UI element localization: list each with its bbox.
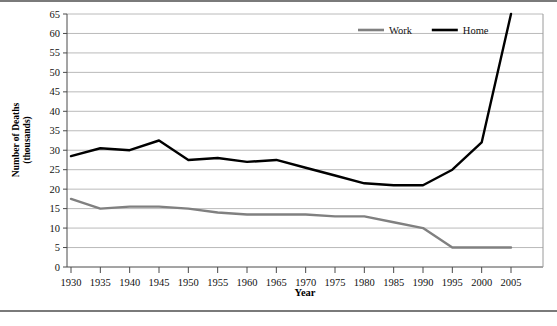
legend-label-work: Work (389, 25, 413, 36)
x-tick-label: 2005 (501, 277, 522, 288)
y-tick-labels-group: 05101520253035404550556065 (50, 9, 61, 273)
x-tick-marks-group (71, 267, 511, 273)
x-tick-label: 1930 (61, 277, 82, 288)
y-tick-label: 45 (50, 86, 61, 97)
x-tick-labels-group: 1930193519401945195019551960196519701975… (61, 277, 522, 288)
y-tick-marks-group (63, 14, 67, 267)
bottom-divider-rule (0, 310, 557, 312)
y-tick-label: 20 (50, 184, 61, 195)
x-tick-label: 2000 (471, 277, 492, 288)
plot-area-wrapper: 05101520253035404550556065 1930193519401… (0, 0, 557, 310)
y-axis-title: Number of Deaths (thousands) (11, 103, 33, 178)
y-tick-label: 5 (55, 242, 60, 253)
line-chart-svg: 05101520253035404550556065 1930193519401… (0, 0, 557, 310)
y-tick-label: 0 (55, 262, 60, 273)
y-axis-title-line2: (thousands) (22, 116, 33, 164)
x-tick-label: 1975 (325, 277, 346, 288)
x-tick-label: 1955 (207, 277, 228, 288)
y-tick-label: 30 (50, 145, 61, 156)
x-tick-label: 1960 (237, 277, 258, 288)
x-tick-label: 1950 (178, 277, 199, 288)
series-line-work (71, 199, 511, 248)
x-tick-label: 1985 (383, 277, 404, 288)
y-tick-label: 40 (50, 106, 61, 117)
chart-legend: WorkHome (358, 25, 489, 36)
y-tick-label: 65 (50, 9, 61, 20)
x-axis-title: Year (295, 287, 316, 298)
x-tick-label: 1945 (149, 277, 170, 288)
x-tick-label: 1965 (266, 277, 287, 288)
x-tick-label: 1980 (354, 277, 375, 288)
x-tick-label: 1990 (413, 277, 434, 288)
y-tick-label: 25 (50, 164, 61, 175)
y-tick-label: 35 (50, 125, 61, 136)
gridlines-group (67, 14, 543, 248)
y-axis-title-line1: Number of Deaths (11, 103, 21, 178)
y-tick-label: 50 (50, 67, 61, 78)
series-line-home (71, 14, 511, 185)
y-tick-label: 60 (50, 28, 61, 39)
x-tick-label: 1940 (119, 277, 140, 288)
chart-figure: 05101520253035404550556065 1930193519401… (0, 0, 557, 326)
x-tick-label: 1995 (442, 277, 463, 288)
x-tick-label: 1935 (90, 277, 111, 288)
y-tick-label: 15 (50, 203, 61, 214)
legend-label-home: Home (463, 25, 489, 36)
y-tick-label: 10 (50, 223, 61, 234)
y-tick-label: 55 (50, 47, 61, 58)
